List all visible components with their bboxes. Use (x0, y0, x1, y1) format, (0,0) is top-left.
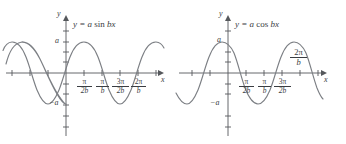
sine-xtick-label-2pi-over-b: 2π b (131, 78, 146, 95)
cosine-amplitude-label: a (217, 36, 221, 44)
trig-graph-figure-pair: x y a −a y = a sin bx π 2b π b 3π 2b 2π … (0, 0, 346, 144)
sine-xtick-label-pi-over-2b: π 2b (77, 78, 92, 95)
sine-negative-amplitude-label: −a (49, 99, 58, 107)
cosine-xtick-label-3pi-over-2b: 3π 2b (274, 78, 291, 95)
sine-xtick-3-num: 2π (131, 78, 146, 86)
cosine-xtick-3-num: 2π (290, 48, 307, 57)
cosine-xtick-2-den: 2b (274, 86, 291, 95)
cosine-x-axis-label: x (324, 76, 328, 84)
cosine-xtick-0-den: 2b (239, 86, 254, 95)
cosine-y-axis-arrow (225, 15, 231, 21)
sine-xtick-0-den: 2b (77, 86, 92, 95)
sine-equation-lhs: y = a (73, 19, 92, 29)
cosine-xtick-1-den: b (258, 86, 271, 95)
sine-equation-function: sin (94, 19, 105, 29)
sine-graph-panel: x y a −a y = a sin bx π 2b π b 3π 2b 2π … (0, 0, 173, 144)
sine-xtick-1-den: b (96, 86, 109, 95)
cosine-equation-lhs: y = a (235, 19, 254, 29)
sine-y-axis-arrow (63, 15, 69, 21)
cosine-equation-function: cos (256, 19, 268, 29)
cosine-y-axis-label: y (219, 10, 223, 18)
cosine-xtick-label-pi-over-2b: π 2b (239, 78, 254, 95)
sine-x-axis-label: x (161, 76, 165, 84)
cosine-xtick-label-pi-over-b: π b (258, 78, 271, 95)
cosine-negative-amplitude-label: −a (210, 99, 219, 107)
cosine-xtick-label-2pi-over-b: 2π b (290, 48, 307, 67)
sine-xtick-3-den: b (131, 86, 146, 95)
cosine-xtick-3-den: b (290, 57, 307, 67)
sine-xtick-1-num: π (96, 78, 109, 86)
sine-y-axis-label: y (57, 10, 61, 18)
sine-xtick-2-num: 3π (112, 78, 129, 86)
sine-xtick-label-3pi-over-2b: 3π 2b (112, 78, 129, 95)
cosine-xtick-2-num: 3π (274, 78, 291, 86)
cosine-xtick-0-num: π (239, 78, 254, 86)
sine-amplitude-label: a (55, 37, 59, 45)
cosine-xtick-1-num: π (258, 78, 271, 86)
sine-equation-label: y = a sin bx (73, 20, 116, 29)
cosine-equation-rhs: bx (271, 19, 280, 29)
cosine-graph-panel: x y a −a y = a cos bx π 2b π b 3π 2b 2π … (173, 0, 346, 144)
sine-equation-rhs: bx (107, 19, 116, 29)
sine-xtick-2-den: 2b (112, 86, 129, 95)
cosine-equation-label: y = a cos bx (235, 20, 279, 29)
sine-xtick-label-pi-over-b: π b (96, 78, 109, 95)
sine-xtick-0-num: π (77, 78, 92, 86)
